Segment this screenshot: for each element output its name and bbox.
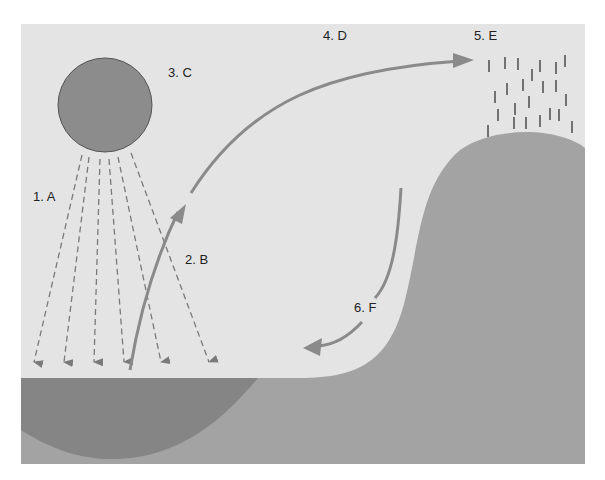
label-d: 4. D [323,28,347,43]
water-cycle-diagram: 1. A 2. B 3. C 4. D 5. E 6. F [0,0,605,480]
label-b: 2. B [185,252,208,267]
label-c: 3. C [168,65,192,80]
label-a: 1. A [33,189,56,204]
label-f: 6. F [354,300,376,315]
label-e: 5. E [474,28,497,43]
sun [58,58,152,152]
